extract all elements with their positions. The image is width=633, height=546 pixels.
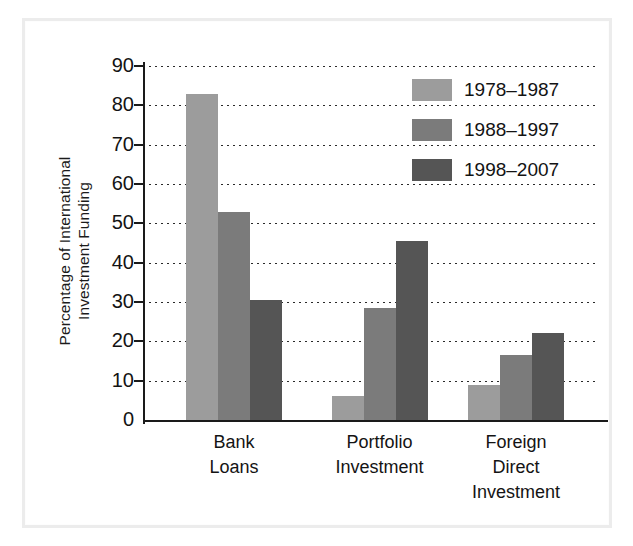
- x-axis-line: [143, 420, 608, 422]
- grouped-bar-chart: Percentage of International Investment F…: [0, 0, 633, 546]
- y-axis-tick-label: 20: [94, 330, 134, 350]
- legend-item: 1988–1997: [412, 114, 592, 146]
- legend-swatch: [412, 79, 452, 101]
- y-axis-tick-label: 90: [94, 55, 134, 75]
- legend-item: 1998–2007: [412, 154, 592, 186]
- bar: [250, 300, 282, 420]
- y-axis-tick-label: 40: [94, 252, 134, 272]
- y-axis-tick-labels: 0102030405060708090: [88, 66, 134, 420]
- y-axis-tick-label: 30: [94, 291, 134, 311]
- bar: [396, 241, 428, 420]
- bar: [364, 308, 396, 420]
- legend-swatch: [412, 119, 452, 141]
- bar: [500, 355, 532, 420]
- y-axis-tick: [134, 262, 145, 264]
- y-axis-tick: [134, 222, 145, 224]
- legend-label: 1978–1987: [464, 79, 559, 101]
- legend: 1978–19871988–19971998–2007: [412, 74, 592, 194]
- x-axis-category-label: Foreign Direct Investment: [426, 430, 606, 505]
- y-axis-tick: [134, 340, 145, 342]
- y-axis-tick-label: 80: [94, 94, 134, 114]
- y-axis-tick: [134, 65, 145, 67]
- bar-group: [186, 66, 282, 420]
- bar: [218, 212, 250, 420]
- figure-page: Percentage of International Investment F…: [0, 0, 633, 546]
- legend-item: 1978–1987: [412, 74, 592, 106]
- legend-swatch: [412, 159, 452, 181]
- bar: [532, 333, 564, 420]
- y-axis-tick-label: 70: [94, 134, 134, 154]
- y-axis-tick: [134, 183, 145, 185]
- bar: [468, 385, 500, 420]
- bar: [186, 94, 218, 420]
- y-axis-tick-label: 60: [94, 173, 134, 193]
- bar: [332, 396, 364, 420]
- y-axis-tick: [134, 104, 145, 106]
- legend-label: 1998–2007: [464, 159, 559, 181]
- y-axis-tick: [134, 301, 145, 303]
- y-axis-tick-label: 50: [94, 212, 134, 232]
- y-axis-tick-label: 10: [94, 370, 134, 390]
- y-axis-tick-label: 0: [94, 409, 134, 429]
- y-axis-tick: [134, 380, 145, 382]
- legend-label: 1988–1997: [464, 119, 559, 141]
- y-axis-tick: [134, 144, 145, 146]
